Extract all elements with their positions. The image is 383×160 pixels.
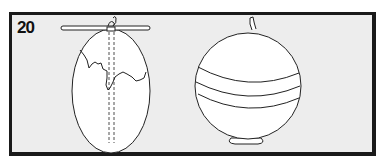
illustration-drawing: [0, 0, 383, 160]
round-melon-icon: [195, 17, 301, 144]
stick-icon: [61, 17, 150, 32]
cut-melon-icon: [72, 29, 150, 153]
